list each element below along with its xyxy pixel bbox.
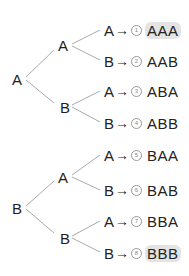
tree1-level2-b: B [60,100,70,115]
leaf-label: A [104,23,114,38]
outcome-row-7: A → 7 BBA [104,213,181,230]
outcome-row-3: A → 3 ABA [104,83,181,100]
outcome-row-6: B → 6 BAB [104,182,181,199]
leaf-label: A [104,148,114,163]
leaf-label: B [104,246,114,261]
outcome-text: ABA [145,83,181,100]
circled-number-badge: 6 [131,185,142,196]
circled-number-badge: 7 [131,216,142,227]
outcome-text: BAA [145,147,181,164]
outcome-text: BAB [145,182,181,199]
tree1-root: A [12,72,22,87]
arrow-icon: → [115,214,128,229]
arrow-icon: → [115,23,128,38]
leaf-label: B [104,183,114,198]
circled-number-badge: 3 [131,86,142,97]
outcome-text: AAB [145,53,181,70]
outcome-row-1: A → 1 AAA [104,22,181,39]
circled-number-badge: 4 [131,118,142,129]
outcome-row-4: B → 4 ABB [104,115,181,132]
leaf-label: A [104,214,114,229]
tree-branches [0,0,189,276]
leaf-label: B [104,54,114,69]
tree2-level2-a: A [58,170,68,185]
arrow-icon: → [115,84,128,99]
arrow-icon: → [115,148,128,163]
tree2-root: B [12,201,22,216]
circled-number-badge: 8 [131,248,142,259]
outcome-row-2: B → 2 AAB [104,53,181,70]
leaf-label: B [104,116,114,131]
outcome-row-5: A → 5 BAA [104,147,181,164]
circled-number-badge: 1 [131,25,142,36]
outcome-row-8: B → 8 BBB [104,245,181,262]
outcome-text: BBA [145,213,181,230]
circled-number-badge: 5 [131,150,142,161]
arrow-icon: → [115,116,128,131]
tree1-level2-a: A [58,38,68,53]
leaf-label: A [104,84,114,99]
circled-number-badge: 2 [131,56,142,67]
outcome-text: AAA [145,22,181,39]
outcome-text: BBB [145,245,181,262]
arrow-icon: → [115,183,128,198]
outcome-text: ABB [145,115,181,132]
arrow-icon: → [115,54,128,69]
arrow-icon: → [115,246,128,261]
tree2-level2-b: B [60,231,70,246]
